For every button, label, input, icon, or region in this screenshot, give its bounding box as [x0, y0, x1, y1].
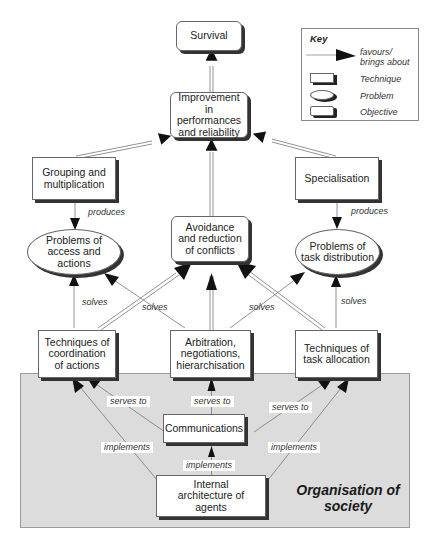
legend-technique-icon	[310, 73, 334, 83]
node-specialisation: Specialisation	[295, 157, 379, 200]
node-specialisation-label: Specialisation	[305, 173, 370, 185]
organisation-of-society-title: Organisation of society	[288, 482, 408, 514]
edge-label-produces-left: produces	[88, 207, 125, 218]
node-internal-architecture: Internal architecture of agents	[156, 475, 266, 517]
edge-label-serves-to-left: serves to	[107, 396, 150, 407]
legend-title: Key	[310, 33, 327, 44]
legend-objective-icon	[310, 106, 334, 116]
legend-arrow-icon	[306, 47, 358, 63]
node-survival-label: Survival	[190, 30, 227, 42]
node-communications: Communications	[163, 414, 245, 443]
legend-label-objective: Objective	[360, 107, 398, 117]
node-survival: Survival	[176, 21, 242, 51]
node-internal-architecture-label: Internal architecture of agents	[171, 479, 251, 514]
edge-label-serves-to-center: serves to	[191, 396, 234, 407]
node-problems-access-label: Problems of access and actions	[42, 235, 106, 270]
node-problems-task-label: Problems of task distribution	[300, 241, 375, 264]
node-avoidance: Avoidance and reduction of conflicts	[171, 216, 249, 262]
node-task-allocation-label: Techniques of task allocation	[302, 343, 371, 366]
legend-label-problem: Problem	[360, 91, 394, 101]
diagram: Survival Improvement in performances and…	[0, 0, 436, 543]
edge-label-solves-left: solves	[82, 297, 108, 308]
legend-problem-icon	[310, 90, 334, 100]
node-avoidance-label: Avoidance and reduction of conflicts	[176, 222, 244, 257]
node-grouping: Grouping and multiplication	[32, 157, 116, 200]
node-task-allocation: Techniques of task allocation	[295, 330, 378, 378]
legend-label-technique: Technique	[360, 74, 401, 84]
edge-label-solves-center-right: solves	[249, 302, 275, 313]
node-coordination-label: Techniques of coordination of actions	[43, 337, 111, 372]
node-problems-task: Problems of task distribution	[295, 229, 380, 275]
node-problems-access: Problems of access and actions	[27, 229, 121, 275]
node-arbitration: Arbitration, negotiations, hierarchisati…	[170, 330, 251, 378]
node-improvement: Improvement in performances and reliabil…	[170, 92, 248, 138]
edge-label-solves-center-left: solves	[142, 302, 168, 313]
edge-label-implements-right: implements	[268, 442, 320, 453]
node-arbitration-label: Arbitration, negotiations, hierarchisati…	[173, 337, 248, 372]
edge-label-produces-right: produces	[351, 206, 388, 217]
edge-label-implements-left: implements	[101, 442, 153, 453]
node-grouping-label: Grouping and multiplication	[37, 167, 111, 190]
edge-label-solves-right: solves	[341, 296, 367, 307]
node-communications-label: Communications	[165, 423, 243, 435]
edge-label-serves-to-right: serves to	[269, 402, 312, 413]
edge-label-implements-center: implements	[183, 460, 235, 471]
node-improvement-label: Improvement in performances and reliabil…	[174, 92, 244, 138]
legend-label-favours: favours/ brings about	[360, 47, 418, 67]
legend: Key favours/ brings about Technique Prob…	[301, 28, 419, 121]
node-coordination: Techniques of coordination of actions	[38, 330, 116, 378]
